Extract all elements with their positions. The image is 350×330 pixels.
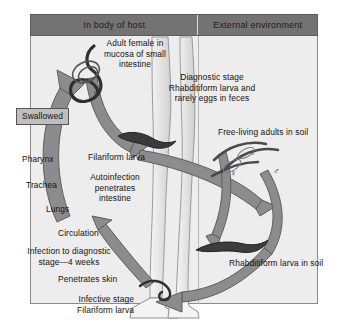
label-lungs: Lungs: [46, 204, 69, 215]
diagram-artwork: [0, 0, 350, 330]
life-cycle-diagram: In body of host External environment: [0, 0, 350, 330]
label-infective-stage: Infective stage Filariform larva: [50, 294, 134, 315]
label-infection-to-diagnostic: Infection to diagnostic stage—4 weeks: [6, 246, 132, 267]
male-symbol-free-living-2: ♂: [273, 166, 280, 176]
label-filariform-larva: Filariform larva: [88, 152, 145, 163]
female-symbol-free-living: ♀: [230, 168, 237, 178]
arrow-swallowed-loop: [43, 70, 84, 222]
label-circulation: Circulation: [58, 228, 99, 239]
label-pharynx: Pharynx: [22, 154, 53, 165]
label-rhabditiform-larva-in-soil: Rhabditiform larva in soil: [229, 258, 329, 269]
label-swallowed: Swallowed: [16, 108, 69, 125]
male-symbol-free-living: ♂: [250, 148, 257, 158]
rhabditiform-larva-icon: [196, 240, 268, 253]
label-free-living-adults: Free-living adults in soil: [218, 127, 328, 138]
label-diagnostic-stage: Diagnostic stage Rhabditiform larva and …: [152, 72, 272, 104]
label-penetrates-skin: Penetrates skin: [58, 274, 117, 285]
label-autoinfection: Autoinfection penetrates intestine: [82, 172, 148, 204]
female-symbol-intestine: ♀: [92, 88, 99, 98]
label-adult-female: Adult female in mucosa of small intestin…: [96, 38, 174, 70]
label-trachea: Trachea: [26, 180, 57, 191]
